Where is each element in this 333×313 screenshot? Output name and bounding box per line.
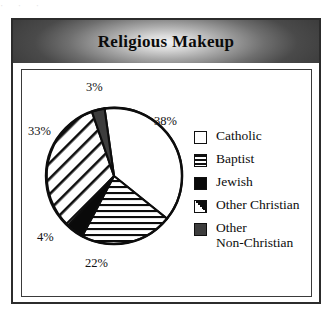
chart-legend: Catholic Baptist Jewish Other Christian … (194, 128, 312, 254)
pie-label-jewish: 4% (37, 230, 54, 245)
pie-label-other-christian: 33% (28, 124, 51, 139)
pie-chart-svg (24, 78, 204, 278)
legend-item-other-christian: Other Christian (194, 197, 312, 216)
chart-title-banner: Religious Makeup (13, 20, 319, 63)
legend-item-jewish: Jewish (194, 174, 312, 193)
legend-label-line1: Other (216, 220, 247, 235)
plot-panel: 3% 38% 33% 4% 22% Catholic Baptist Jewis… (21, 69, 312, 297)
pie-label-other-non-christian: 3% (86, 80, 103, 95)
scan-artifact: · · · (0, 0, 333, 11)
legend-label-catholic: Catholic (216, 128, 262, 143)
page-title: Religious Makeup (98, 32, 235, 52)
figure-frame: Religious Makeup (11, 18, 321, 304)
legend-item-baptist: Baptist (194, 151, 312, 170)
legend-label-jewish: Jewish (216, 174, 253, 189)
solid-black-swatch-icon (194, 177, 207, 190)
legend-item-other-non-christian: Other Non-Christian (194, 220, 312, 250)
legend-label-baptist: Baptist (216, 151, 254, 166)
legend-label-other-christian: Other Christian (216, 197, 300, 212)
pie-chart: 3% 38% 33% 4% 22% (24, 78, 204, 278)
legend-label-other-non-christian: Other Non-Christian (216, 220, 293, 250)
legend-item-catholic: Catholic (194, 128, 312, 147)
white-box-swatch-icon (194, 131, 207, 144)
legend-label-line2: Non-Christian (216, 235, 293, 250)
pie-label-catholic: 38% (154, 114, 177, 129)
solid-dark-gray-swatch-icon (194, 223, 207, 236)
horizontal-lines-swatch-icon (194, 154, 207, 167)
pie-label-baptist: 22% (85, 256, 108, 271)
diagonal-hatch-swatch-icon (194, 200, 207, 213)
